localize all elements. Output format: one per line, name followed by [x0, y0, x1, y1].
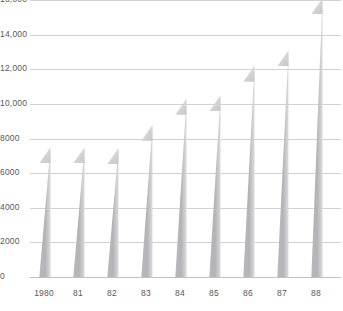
- bar-83: [140, 125, 153, 277]
- bar-body: [208, 95, 221, 277]
- bar-85: [208, 95, 221, 277]
- x-axis-label-88: 88: [296, 288, 336, 298]
- y-axis-label-0: 0: [0, 272, 28, 281]
- gridline-0: [30, 277, 341, 278]
- y-axis-label-12000: 12,000: [0, 64, 28, 73]
- bar-body: [174, 99, 187, 277]
- bar-body: [38, 147, 51, 277]
- bar-top-facet: [140, 125, 153, 141]
- y-axis-label-8000: 8000: [0, 134, 28, 143]
- bar-body: [72, 147, 85, 277]
- bar-81: [72, 147, 85, 277]
- y-axis-label-14000: 14,000: [0, 30, 28, 39]
- bar-top-facet: [208, 95, 221, 111]
- bar-top-facet: [310, 0, 323, 14]
- y-axis-label-6000: 6000: [0, 168, 28, 177]
- bar-87: [276, 50, 289, 277]
- bar-body: [140, 125, 153, 277]
- plot-area: [30, 0, 341, 277]
- bar-86: [242, 66, 255, 277]
- bar-top-facet: [72, 147, 85, 163]
- bar-body: [106, 148, 119, 277]
- bar-84: [174, 99, 187, 277]
- bar-top-facet: [106, 148, 119, 164]
- bar-body: [242, 66, 255, 277]
- bar-top-facet: [276, 50, 289, 66]
- bar-top-facet: [242, 66, 255, 82]
- bar-88: [310, 0, 323, 277]
- y-axis-label-16000: 16,000: [0, 0, 28, 4]
- y-axis-label-2000: 2000: [0, 237, 28, 246]
- bar-82: [106, 148, 119, 277]
- bar-chart: 0200040006000800010,00012,00014,00016,00…: [0, 0, 343, 311]
- y-axis-label-4000: 4000: [0, 203, 28, 212]
- bar-top-facet: [38, 147, 51, 163]
- y-axis-label-10000: 10,000: [0, 99, 28, 108]
- bar-1980: [38, 147, 51, 277]
- bar-body: [276, 50, 289, 277]
- bar-top-facet: [174, 99, 187, 115]
- bar-body: [310, 0, 323, 277]
